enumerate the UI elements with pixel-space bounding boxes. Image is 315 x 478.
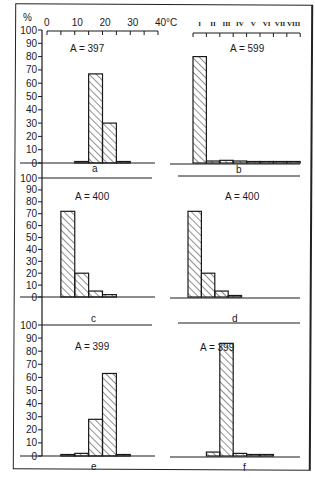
y-tick-label: 30 (26, 256, 38, 267)
y-tick-label: 30 (26, 411, 38, 422)
histogram-bar (89, 74, 103, 163)
y-tick-label: 100 (20, 173, 37, 184)
temp-tick-label: 10 (72, 17, 84, 28)
roman-tick-label: VI (263, 20, 271, 28)
histogram-bar (220, 160, 233, 163)
temp-tick-label: 30 (127, 17, 139, 28)
histogram-bar (260, 455, 273, 457)
roman-tick-label: IV (236, 20, 244, 28)
histogram-bar (233, 161, 246, 163)
histogram-bar (247, 455, 260, 457)
y-tick-label: 40 (26, 398, 38, 409)
y-tick-label: 10 (26, 437, 38, 448)
roman-tick-label: VII (275, 20, 286, 28)
y-tick-label: 10 (26, 280, 38, 291)
panel-label: e (91, 461, 97, 472)
y-tick-label: 90 (26, 184, 38, 195)
percent-label: % (23, 12, 32, 23)
panel-annotation: A = 400 (75, 191, 110, 202)
histogram-bar (75, 162, 89, 164)
temp-tick-label: 0 (44, 17, 50, 28)
y-tick-label: 80 (26, 51, 38, 62)
axes-layer: % (23, 12, 32, 23)
y-tick-label: 40 (26, 244, 38, 255)
y-tick-label: 100 (20, 320, 37, 331)
y-tick-label: 40 (26, 104, 38, 115)
histogram-bar (193, 57, 206, 163)
histogram-bar (260, 162, 273, 164)
y-tick-label: 80 (26, 196, 38, 207)
y-tick-label: 60 (26, 220, 38, 231)
y-tick-label: 50 (26, 385, 38, 396)
y-tick-label: 100 (20, 25, 37, 36)
y-tick-label: 20 (26, 268, 38, 279)
panel-annotation: A = 397 (70, 43, 105, 54)
roman-tick-label: II (210, 20, 216, 28)
histogram-bar (116, 162, 130, 164)
roman-tick-label: I (198, 20, 201, 28)
roman-tick-label: V (251, 20, 256, 28)
panel-annotation: A = 399 (75, 341, 110, 352)
y-tick-label: 70 (26, 359, 38, 370)
panel-annotation: A = 400 (225, 191, 260, 202)
histogram-bar (75, 453, 89, 456)
histogram-bar (228, 296, 241, 298)
histogram-bar (201, 273, 214, 297)
y-tick-label: 20 (26, 424, 38, 435)
panel-annotation: A = 399 (200, 342, 235, 353)
histogram-bar (103, 123, 117, 163)
histogram-bar (233, 453, 246, 456)
histogram-bar (247, 162, 260, 164)
y-tick-label: 50 (26, 232, 38, 243)
histogram-figure: % 010203040°CIIIIIIIVVVIVIIVIII100908070… (0, 0, 315, 478)
histogram-bar (89, 419, 103, 456)
panel-label: c (91, 313, 96, 324)
panel-label: f (243, 462, 246, 473)
histogram-bar (75, 273, 89, 297)
temp-tick-label: 20 (100, 17, 112, 28)
y-tick-label: 50 (26, 91, 38, 102)
panel-label: b (236, 164, 242, 175)
y-tick-label: 60 (26, 372, 38, 383)
y-tick-label: 10 (26, 144, 38, 155)
panels-layer: 010203040°CIIIIIIIVVVIVIIVIII10090807060… (20, 17, 300, 473)
y-tick-label: 20 (26, 131, 38, 142)
y-tick-label: 70 (26, 208, 38, 219)
histogram-bar (61, 211, 75, 297)
roman-tick-label: III (222, 20, 230, 28)
y-tick-label: 70 (26, 64, 38, 75)
panel-label: a (92, 163, 98, 174)
y-tick-label: 60 (26, 78, 38, 89)
y-tick-label: 90 (26, 38, 38, 49)
histogram-bar (206, 161, 219, 163)
histogram-bar (273, 162, 286, 164)
histogram-bar (103, 373, 117, 456)
y-tick-label: 30 (26, 118, 38, 129)
histogram-bar (116, 455, 130, 457)
histogram-bar (206, 452, 219, 456)
temp-tick-label: 40°C (155, 17, 177, 28)
histogram-bar (61, 455, 75, 457)
roman-tick-label: VIII (287, 20, 301, 28)
y-tick-label: 90 (26, 333, 38, 344)
histogram-bar (188, 211, 201, 297)
panel-label: d (232, 313, 238, 324)
histogram-bar (103, 295, 117, 297)
histogram-bar (215, 291, 228, 297)
y-tick-label: 80 (26, 346, 38, 357)
panel-annotation: A = 599 (230, 43, 265, 54)
histogram-bar (220, 343, 233, 456)
histogram-bar (89, 291, 103, 297)
histogram-bar (287, 162, 300, 164)
